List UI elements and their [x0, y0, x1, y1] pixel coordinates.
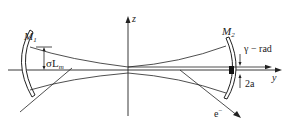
gamma-arrow-icon — [265, 65, 272, 70]
aperture-bottom-arrow-icon — [239, 74, 242, 78]
z-axis-arrow-icon — [126, 16, 131, 23]
label-m2: M2 — [221, 25, 235, 39]
cavity-diagram: M1 M2 z y σLm γ − rad 2a e− — [0, 0, 293, 126]
label-y-axis: y — [271, 72, 277, 83]
mirror-aperture — [229, 66, 234, 74]
label-gamma-rad: γ − rad — [243, 43, 272, 54]
label-aperture-2a: 2a — [245, 78, 255, 89]
label-m1: M1 — [23, 30, 37, 44]
aperture-top-arrow-icon — [239, 62, 242, 66]
label-sigma-lm: σLm — [46, 57, 64, 71]
electron-arrow-icon — [233, 111, 241, 118]
label-electron: e− — [214, 107, 222, 119]
sigma-lm-arrow-up-icon — [43, 47, 46, 51]
label-z-axis: z — [131, 13, 136, 24]
electron-path-left — [20, 68, 72, 112]
